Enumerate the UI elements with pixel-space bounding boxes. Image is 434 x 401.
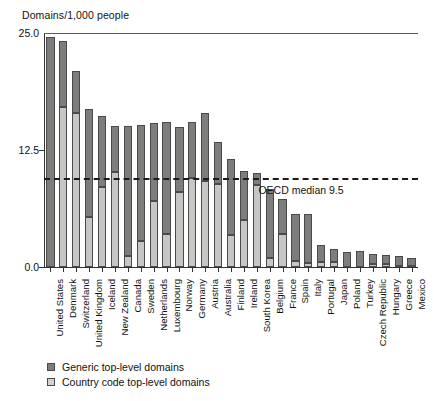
oecd-median-line: [44, 178, 418, 180]
x-axis-label-text: United Kingdom: [93, 275, 104, 347]
x-axis-label-text: Sweden: [145, 275, 156, 314]
x-axis-tick-mark: [257, 268, 258, 272]
x-axis-label-text: South Korea: [261, 275, 272, 332]
x-axis-tick-mark: [141, 268, 142, 272]
x-axis-label-czech-republic: Czech Republic: [377, 204, 388, 275]
x-axis-label-text: Spain: [299, 275, 310, 304]
legend-label-gtld: Generic top-level domains: [62, 361, 184, 373]
legend-swatch-cctld-icon: [47, 378, 55, 386]
x-axis-tick-mark: [308, 268, 309, 272]
x-axis-tick-mark: [386, 268, 387, 272]
bar-segment-gtld: [201, 113, 209, 181]
x-axis-label-text: Czech Republic: [377, 275, 388, 346]
x-axis-tick-mark: [205, 268, 206, 272]
x-axis-label-united-kingdom: United Kingdom: [93, 203, 104, 275]
x-axis-tick-mark: [128, 268, 129, 272]
x-axis-tick-mark: [89, 268, 90, 272]
x-axis-tick-mark: [154, 268, 155, 272]
x-axis-label-text: Turkey: [364, 275, 375, 308]
x-axis-tick-mark: [283, 268, 284, 272]
x-axis-label-text: Denmark: [67, 275, 78, 318]
x-axis-label-text: Italy: [312, 275, 323, 297]
x-axis-label-text: Poland: [351, 275, 362, 309]
bar-segment-gtld: [98, 116, 106, 186]
x-axis-label-united-states: United States: [54, 213, 65, 275]
y-axis-tick-mark: [39, 150, 44, 151]
x-axis-label-text: Netherlands: [158, 275, 169, 331]
y-axis-tick-mark: [39, 267, 44, 268]
x-axis-tick-mark: [373, 268, 374, 272]
bar-segment-gtld: [227, 159, 235, 235]
y-axis-tick-labels: 0.012.525.0: [0, 0, 39, 401]
x-axis-label-text: Germany: [196, 275, 207, 318]
x-axis-tick-mark: [179, 268, 180, 272]
x-axis-tick-mark: [231, 268, 232, 272]
x-axis-label-text: Austria: [209, 275, 220, 309]
bar-segment-gtld: [150, 123, 158, 202]
x-axis-tick-mark: [63, 268, 64, 272]
bar-segment-gtld: [111, 126, 119, 173]
bar-segment-gtld: [188, 122, 196, 178]
chart-legend: Generic top-level domains Country code t…: [47, 359, 210, 389]
x-axis-label-text: Portugal: [325, 275, 336, 315]
legend-item-gtld: Generic top-level domains: [47, 359, 210, 374]
plot-top-rule: [44, 33, 418, 34]
x-axis-label-netherlands: Netherlands: [158, 219, 169, 275]
x-axis-label-text: Belgium: [274, 275, 285, 314]
x-axis-label-text: Switzerland: [80, 275, 91, 329]
x-axis-label-text: Mexico: [416, 275, 427, 309]
x-axis-label-text: Japan: [338, 275, 349, 305]
x-axis-tick-mark: [218, 268, 219, 272]
bar-segment-gtld: [85, 109, 93, 218]
x-axis-label-south-korea: South Korea: [261, 218, 272, 275]
x-axis-label-text: Finland: [235, 275, 246, 310]
x-axis-tick-mark: [192, 268, 193, 272]
x-axis-label-text: United States: [54, 275, 65, 337]
x-axis-label-luxembourg: Luxembourg: [171, 218, 182, 275]
bar-segment-gtld: [175, 127, 183, 193]
x-axis-tick-mark: [321, 268, 322, 272]
x-axis-tick-mark: [295, 268, 296, 272]
x-axis-tick-mark: [115, 268, 116, 272]
x-axis-label-text: New Zealand: [119, 275, 130, 336]
x-axis-tick-mark: [244, 268, 245, 272]
x-axis-tick-mark: [50, 268, 51, 272]
x-axis-tick-mark: [347, 268, 348, 272]
x-axis-label-text: Luxembourg: [171, 275, 182, 332]
x-axis-tick-mark: [360, 268, 361, 272]
oecd-median-label: OECD median 9.5: [258, 184, 343, 196]
legend-swatch-gtld-icon: [47, 363, 55, 371]
x-axis-label-text: Australia: [222, 275, 233, 316]
x-axis-tick-mark: [167, 268, 168, 272]
x-axis-label-mexico: Mexico: [416, 241, 427, 275]
x-axis-label-text: Greece: [403, 275, 414, 310]
x-axis-label-text: Norway: [183, 275, 194, 312]
legend-item-cctld: Country code top-level domains: [47, 374, 210, 389]
x-axis-label-text: Hungary: [390, 275, 401, 315]
x-axis-label-new-zealand: New Zealand: [119, 214, 130, 275]
bar-segment-gtld: [59, 41, 67, 107]
y-axis-tick-label: 25.0: [5, 27, 39, 39]
bar-segment-gtld: [137, 125, 145, 241]
x-axis-tick-mark: [412, 268, 413, 272]
x-axis-label-text: Iceland: [106, 275, 117, 310]
x-axis-label-text: France: [287, 275, 298, 309]
bar-segment-gtld: [278, 199, 286, 235]
x-axis-tick-mark: [399, 268, 400, 272]
legend-label-cctld: Country code top-level domains: [62, 376, 210, 388]
chart-figure: Domains/1,000 people 0.012.525.0 OECD me…: [0, 0, 434, 401]
x-axis-tick-mark: [76, 268, 77, 272]
x-axis-tick-mark: [102, 268, 103, 272]
x-axis-label-text: Canada: [132, 275, 143, 313]
x-axis-tick-mark: [334, 268, 335, 272]
bar-segment-gtld: [72, 71, 80, 112]
x-axis-label-text: Ireland: [248, 275, 259, 308]
x-axis-tick-mark: [270, 268, 271, 272]
y-axis-tick-label: 0.0: [5, 261, 39, 273]
y-axis-tick-label: 12.5: [5, 144, 39, 156]
x-axis-label-switzerland: Switzerland: [80, 221, 91, 275]
